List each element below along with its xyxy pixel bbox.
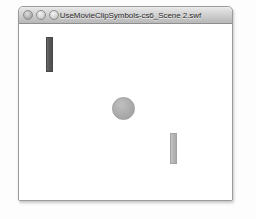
flash-stage[interactable] — [19, 24, 232, 201]
minimize-button-icon[interactable] — [36, 10, 46, 20]
close-button-icon[interactable] — [23, 10, 33, 20]
window-controls — [23, 10, 59, 20]
stage-shape-light-bar[interactable] — [170, 133, 177, 164]
flash-player-window: UseMovieClipSymbols-cs6_Scene 2.swf — [18, 6, 233, 201]
stage-shape-ball[interactable] — [112, 97, 135, 120]
zoom-button-icon[interactable] — [49, 10, 59, 20]
stage-shape-dark-bar[interactable] — [46, 37, 53, 72]
screen: UseMovieClipSymbols-cs6_Scene 2.swf — [0, 0, 256, 219]
window-titlebar[interactable]: UseMovieClipSymbols-cs6_Scene 2.swf — [19, 7, 232, 24]
